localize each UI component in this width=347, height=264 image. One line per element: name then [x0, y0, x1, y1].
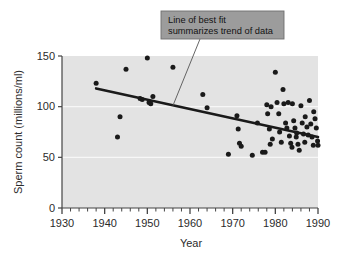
data-point	[170, 65, 175, 70]
data-point	[264, 102, 269, 107]
data-point	[287, 134, 292, 139]
data-point	[311, 109, 316, 114]
data-point	[276, 111, 281, 116]
data-point	[298, 103, 303, 108]
data-point	[291, 118, 296, 123]
x-axis-label: Year	[180, 237, 203, 249]
data-point	[302, 140, 307, 145]
data-point	[263, 150, 268, 155]
data-point	[275, 100, 280, 105]
y-tick-label: 0	[49, 202, 55, 214]
data-point	[281, 87, 286, 92]
data-point	[226, 152, 231, 157]
y-tick-label: 150	[37, 50, 55, 62]
data-point	[295, 142, 300, 147]
data-point	[297, 148, 302, 153]
x-tick-label: 1950	[135, 217, 159, 229]
data-point	[234, 113, 239, 118]
data-point	[303, 114, 308, 119]
data-point	[250, 153, 255, 158]
data-point	[286, 100, 291, 105]
data-point	[311, 143, 316, 148]
y-axis-label: Sperm count (millions/ml)	[12, 70, 24, 194]
data-point	[281, 101, 286, 106]
data-point	[307, 98, 312, 103]
data-point	[316, 143, 321, 148]
data-point	[269, 104, 274, 109]
data-point	[279, 140, 284, 145]
data-point	[289, 145, 294, 150]
x-tick-label: 1980	[263, 217, 287, 229]
sperm-count-scatter-figure: Line of best fit summarizes trend of dat…	[0, 0, 347, 264]
data-point	[314, 125, 319, 130]
chart-canvas: Line of best fit summarizes trend of dat…	[0, 0, 347, 264]
x-tick-label: 1970	[220, 217, 244, 229]
data-point	[239, 144, 244, 149]
data-point	[200, 92, 205, 97]
data-point	[236, 126, 241, 131]
data-point	[290, 101, 295, 106]
data-point	[150, 94, 155, 99]
data-point	[270, 137, 275, 142]
annotation-line-1: Line of best fit	[168, 15, 226, 25]
data-point	[300, 120, 305, 125]
x-tick-label: 1960	[178, 217, 202, 229]
data-point	[124, 67, 129, 72]
y-tick-label: 100	[37, 100, 55, 112]
x-tick-label: 1940	[92, 217, 116, 229]
data-point	[308, 121, 313, 126]
data-point	[145, 56, 150, 61]
data-point	[292, 125, 297, 130]
data-point	[118, 114, 123, 119]
data-point	[205, 105, 210, 110]
data-point	[283, 120, 288, 125]
data-point	[115, 135, 120, 140]
data-point	[313, 116, 318, 121]
data-point	[273, 70, 278, 75]
data-point	[268, 142, 273, 147]
annotation-line-2: summarizes trend of data	[168, 26, 274, 36]
data-point	[265, 111, 270, 116]
x-tick-label: 1930	[50, 217, 74, 229]
data-point	[94, 81, 99, 86]
x-tick-label: 1990	[306, 217, 330, 229]
y-tick-label: 50	[43, 151, 55, 163]
